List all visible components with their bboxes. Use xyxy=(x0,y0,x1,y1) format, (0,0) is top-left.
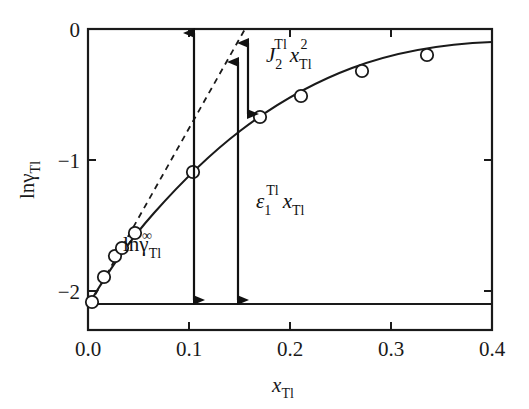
epsilon-superscript: Tl xyxy=(266,183,279,198)
x-tick-label-2: 0.2 xyxy=(277,337,303,361)
x-tick-labels: 0.0 0.1 0.2 0.3 0.4 xyxy=(75,337,506,361)
data-point-markers xyxy=(86,49,433,308)
ln-gamma-superscript: ∞ xyxy=(142,228,152,243)
svg-text:ε1TlxTl: ε1TlxTl xyxy=(256,183,305,218)
data-point xyxy=(356,65,368,77)
data-point xyxy=(86,296,98,308)
y-tick-labels: 0 −1 −2 xyxy=(58,18,80,304)
plot-frame xyxy=(88,29,492,330)
data-point xyxy=(98,271,110,283)
annotation-label-epsilon-1-x: ε1TlxTl xyxy=(256,183,305,218)
y-axis-title-sub: Tl xyxy=(28,161,43,174)
y-axis-title-main: lnγ xyxy=(15,173,39,199)
svg-text:lnγTl: lnγTl xyxy=(15,161,43,199)
x-tick-label-3: 0.3 xyxy=(378,337,404,361)
figure-container: 0.0 0.1 0.2 0.3 0.4 0 −1 −2 xTl lnγTl xyxy=(0,0,529,409)
x-axis-ticks xyxy=(189,322,391,330)
annotation-label-ln-gamma-infinity: lnγTl∞ xyxy=(123,228,161,261)
x-axis-title: xTl xyxy=(271,373,294,401)
ln-gamma-subscript: Tl xyxy=(149,246,162,261)
y-axis-title: lnγTl xyxy=(15,161,43,199)
data-point xyxy=(295,90,307,102)
fitted-curve xyxy=(89,42,492,304)
x-tick-label-4: 0.4 xyxy=(479,337,506,361)
x-axis-title-sub: Tl xyxy=(281,386,294,401)
activity-coefficient-chart: 0.0 0.1 0.2 0.3 0.4 0 −1 −2 xTl lnγTl xyxy=(0,0,529,409)
x-tick-label-0: 0.0 xyxy=(75,337,101,361)
svg-text:lnγTl∞: lnγTl∞ xyxy=(123,228,161,261)
j2-x-superscript: 2 xyxy=(301,37,308,52)
j2-x-subscript: Tl xyxy=(299,57,312,72)
x-axis-ticks-top xyxy=(189,29,391,37)
svg-text:xTl: xTl xyxy=(271,373,294,401)
y-tick-label-0: 0 xyxy=(70,18,81,42)
y-tick-label-2: −2 xyxy=(58,280,80,304)
y-axis-ticks-right xyxy=(484,160,492,291)
x-tick-label-1: 0.1 xyxy=(176,337,202,361)
y-tick-label-1: −1 xyxy=(58,149,80,173)
epsilon-x-subscript: Tl xyxy=(292,203,305,218)
data-point xyxy=(254,111,266,123)
y-axis-ticks xyxy=(88,160,96,291)
svg-text:J2TlxTl2: J2TlxTl2 xyxy=(266,37,312,72)
j2-superscript: Tl xyxy=(274,37,287,52)
annotation-label-j2-x-squared: J2TlxTl2 xyxy=(266,37,312,72)
data-point xyxy=(421,49,433,61)
epsilon-subscript: 1 xyxy=(264,203,271,218)
j2-subscript: 2 xyxy=(275,57,282,72)
